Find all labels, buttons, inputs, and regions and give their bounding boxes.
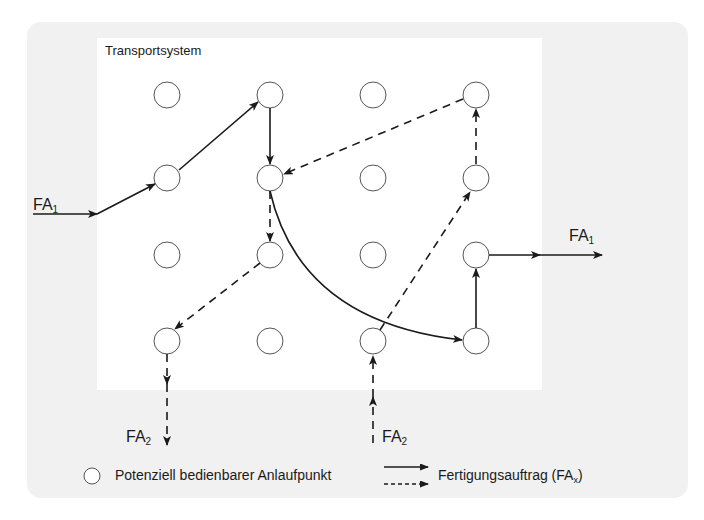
node-r4c4	[463, 328, 489, 354]
node-r2c3	[360, 165, 386, 191]
fa2-input-label-base: FA	[382, 428, 402, 445]
transport-system-title: Transportsystem	[105, 43, 201, 58]
legend-node-icon	[84, 468, 100, 484]
fa2-input-label-sub: 2	[402, 436, 408, 447]
node-r2c1	[154, 165, 180, 191]
fa2-edge-3	[284, 99, 463, 174]
legend-node-label: Potenziell bedienbarer Anlaufpunkt	[115, 467, 331, 483]
fa1-output-label-sub: 1	[589, 235, 595, 246]
fa2-input-label: FA2	[382, 428, 407, 447]
legend-order-label-end: )	[578, 467, 583, 483]
fa2-output-label-base: FA	[126, 428, 146, 445]
node-r2c2	[257, 165, 283, 191]
diagram-canvas: Transportsystem FA1 FA1 FA2 FA2 Potenzie…	[0, 0, 704, 520]
fa2-edge-1	[380, 192, 470, 330]
route-fa1-solid	[33, 102, 602, 340]
fa1-edge-2	[179, 102, 258, 170]
fa2-output-label: FA2	[126, 428, 151, 447]
fa2-output-label-sub: 2	[146, 436, 152, 447]
node-r4c2	[257, 328, 283, 354]
fa1-input-label: FA1	[33, 196, 58, 215]
node-r1c4	[463, 82, 489, 108]
fa1-edge-1	[97, 184, 155, 214]
fa2-edge-5	[175, 263, 260, 329]
node-grid	[154, 82, 489, 354]
legend-order-label: Fertigungsauftrag (FAx)	[438, 467, 583, 485]
flow-graph	[0, 0, 704, 520]
node-r2c4	[463, 165, 489, 191]
node-r3c4	[463, 242, 489, 268]
legend-order-label-base: Fertigungsauftrag (FA	[438, 467, 573, 483]
fa1-output-label: FA1	[569, 227, 594, 246]
node-r3c2	[257, 242, 283, 268]
fa1-input-label-sub: 1	[53, 204, 59, 215]
route-fa2-dashed	[167, 99, 476, 445]
fa1-output-label-base: FA	[569, 227, 589, 244]
node-r4c3	[360, 328, 386, 354]
node-r3c3	[360, 242, 386, 268]
node-r1c3	[360, 82, 386, 108]
node-r3c1	[154, 242, 180, 268]
node-r1c2	[257, 82, 283, 108]
node-r4c1	[154, 328, 180, 354]
node-r1c1	[154, 82, 180, 108]
fa1-input-label-base: FA	[33, 196, 53, 213]
